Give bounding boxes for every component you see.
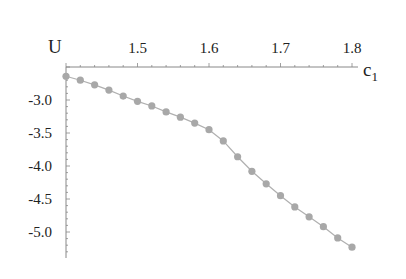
y-axis-label: U [48,36,62,57]
data-point-marker [234,153,241,160]
series-line [66,76,352,247]
data-point-marker [62,73,69,80]
data-point-marker [334,234,341,241]
x-tick-label: 1.7 [271,40,290,56]
data-point-marker [348,244,355,251]
axes: 1.51.61.71.8-3.0-3.5-4.0-4.5-5.0 [28,40,361,258]
data-point-marker [177,114,184,121]
data-point-marker [291,203,298,210]
data-point-marker [205,126,212,133]
data-point-marker [77,77,84,84]
data-point-marker [91,81,98,88]
x-tick-label: 1.8 [343,40,362,56]
data-point-marker [105,87,112,94]
x-tick-label: 1.6 [200,40,219,56]
data-point-marker [120,92,127,99]
data-point-marker [148,102,155,109]
data-point-marker [248,168,255,175]
line-chart: 1.51.61.71.8-3.0-3.5-4.0-4.5-5.0 U c1 [0,0,406,279]
data-point-marker [277,192,284,199]
data-point-marker [320,223,327,230]
y-tick-label: -4.5 [28,191,52,207]
y-tick-label: -3.5 [28,125,52,141]
data-point-marker [134,98,141,105]
y-tick-label: -4.0 [28,158,52,174]
data-point-marker [220,137,227,144]
y-tick-label: -3.0 [28,92,52,108]
y-tick-label: -5.0 [28,224,52,240]
x-tick-label: 1.5 [128,40,147,56]
data-series [62,73,355,251]
data-point-marker [306,213,313,220]
data-point-marker [263,180,270,187]
x-axis-label: c1 [363,59,378,84]
data-point-marker [191,120,198,127]
data-point-marker [163,108,170,115]
